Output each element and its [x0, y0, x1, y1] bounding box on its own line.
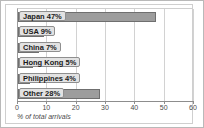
x-axis-tick-label: 50 [160, 103, 168, 112]
gridline [76, 9, 77, 101]
x-axis-tick-label: 20 [72, 103, 80, 112]
gridline [193, 9, 194, 101]
x-axis-tick-label: 30 [101, 103, 109, 112]
bar-data-label: USA 9% [19, 26, 55, 36]
x-axis-tick-label: 0 [15, 103, 19, 112]
bar-data-label: Philippines 4% [19, 73, 80, 83]
plot-area [17, 8, 193, 101]
x-axis-tick-label: 40 [130, 103, 138, 112]
x-axis-tick-label: 60 [189, 103, 197, 112]
gridline [134, 9, 135, 101]
bar-data-label: Other 28% [19, 88, 64, 98]
bar-data-label: Hong Kong 5% [19, 57, 80, 67]
x-axis-tick-label: 10 [42, 103, 50, 112]
chart-frame: % of total arrivals 0102030405060Japan 4… [0, 0, 204, 128]
gridline [46, 9, 47, 101]
gridline [105, 9, 106, 101]
x-axis-title: % of total arrivals [17, 113, 71, 120]
gridline [164, 9, 165, 101]
bar-data-label: Japan 47% [19, 11, 66, 21]
bar-data-label: China 7% [19, 42, 61, 52]
